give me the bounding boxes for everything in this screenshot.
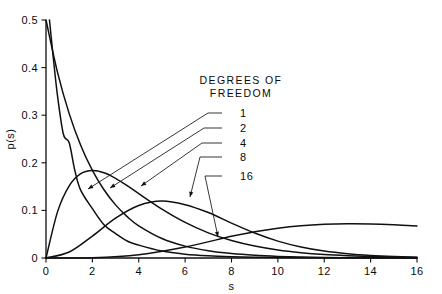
y-axis-tick-label: 0: [31, 252, 38, 264]
legend-arrowhead-df-2: [110, 184, 116, 189]
legend-label-df-2: 2: [240, 122, 247, 134]
density-curve-df-8: [46, 201, 417, 258]
y-axis-tick-label: 0.5: [22, 14, 39, 26]
y-axis-tick-label: 0.4: [22, 62, 39, 74]
x-axis-tick-label: 0: [43, 265, 50, 277]
x-axis-tick-label: 14: [364, 265, 377, 277]
x-axis-label: s: [229, 280, 235, 292]
x-axis-tick-label: 2: [89, 265, 96, 277]
legend-title-line-2: FREEDOM: [210, 87, 272, 99]
legend-label-df-4: 4: [240, 137, 247, 149]
density-curve-df-1: [49, 20, 417, 258]
y-axis-tick-label: 0.3: [22, 109, 39, 121]
chi-squared-density-plot: 024681012141600.10.20.30.40.5sp(s)DEGREE…: [0, 0, 442, 294]
legend-leader-line-df-16: [205, 176, 222, 237]
x-axis-tick-label: 6: [182, 265, 189, 277]
legend-leader-line-df-8: [190, 157, 222, 197]
legend-title-line-1: DEGREES OF: [200, 74, 283, 86]
y-axis-tick-label: 0.1: [22, 204, 39, 216]
legend-leader-line-df-4: [141, 143, 222, 186]
legend-arrowhead-df-4: [141, 181, 146, 186]
chart-figure: 024681012141600.10.20.30.40.5sp(s)DEGREE…: [0, 0, 442, 294]
x-axis-tick-label: 10: [271, 265, 284, 277]
density-curve-df-4: [46, 170, 417, 258]
legend-arrowhead-df-1: [88, 185, 94, 190]
legend-label-df-16: 16: [240, 170, 253, 182]
x-axis-tick-label: 16: [410, 265, 423, 277]
legend-label-df-8: 8: [240, 151, 247, 163]
x-axis-tick-label: 4: [135, 265, 142, 277]
legend-leader-line-df-1: [88, 113, 222, 189]
x-axis-tick-label: 12: [318, 265, 331, 277]
y-axis-label: p(s): [4, 129, 16, 150]
y-axis-tick-label: 0.2: [22, 157, 39, 169]
legend-label-df-1: 1: [240, 107, 247, 119]
x-axis-tick-label: 8: [228, 265, 235, 277]
